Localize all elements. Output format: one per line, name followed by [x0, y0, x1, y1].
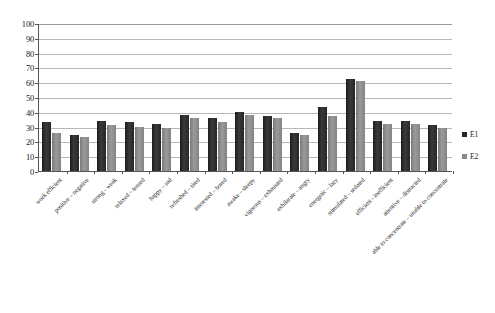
legend-swatch-e2-icon — [462, 154, 467, 159]
y-axis-tick-label: 30 — [0, 124, 34, 133]
bar-e1 — [180, 115, 189, 171]
bar-chart: 0102030405060708090100 work efficientpos… — [0, 0, 495, 313]
y-axis-tick-label: 60 — [0, 79, 34, 88]
bar-group — [149, 24, 177, 171]
legend-item-e1: E1 — [462, 128, 495, 141]
bar-e1 — [42, 122, 51, 171]
x-axis-tick — [122, 171, 123, 174]
x-axis-label: awake – sleepy — [224, 176, 256, 208]
plot-area — [38, 24, 452, 172]
x-axis-tick — [343, 171, 344, 174]
bar-group — [122, 24, 150, 171]
x-axis-label: efficient - inefficient — [353, 176, 394, 217]
x-axis-label: happy – sad — [147, 176, 173, 202]
x-axis-tick — [94, 171, 95, 174]
y-axis-tick — [35, 172, 38, 173]
bar-e2 — [52, 133, 61, 171]
x-axis-tick — [370, 171, 371, 174]
bar-group — [370, 24, 398, 171]
legend-swatch-e1-icon — [462, 132, 467, 137]
bar-e1 — [125, 122, 134, 171]
y-axis-tick-label: 80 — [0, 50, 34, 59]
bar-e1 — [346, 79, 355, 171]
x-axis-tick — [232, 171, 233, 174]
bar-e1 — [428, 125, 437, 171]
bar-e2 — [190, 118, 199, 171]
x-axis-tick — [205, 171, 206, 174]
y-axis-tick-label: 20 — [0, 138, 34, 147]
bar-e2 — [107, 125, 116, 171]
bar-e2 — [411, 124, 420, 171]
x-axis-label: exhilarate – angry — [275, 176, 311, 212]
bar-e2 — [80, 137, 89, 171]
bar-e2 — [383, 124, 392, 171]
x-axis-tick — [315, 171, 316, 174]
y-axis-tick-label: 40 — [0, 109, 34, 118]
x-axis-label: interested – bored — [192, 176, 228, 212]
y-axis-tick-label: 10 — [0, 153, 34, 162]
bar-group — [260, 24, 288, 171]
bar-group — [177, 24, 205, 171]
x-axis-tick — [260, 171, 261, 174]
x-axis-label: attentive – distracted — [381, 176, 422, 217]
bar-group — [39, 24, 67, 171]
bar-e2 — [273, 118, 282, 171]
x-axis-tick — [177, 171, 178, 174]
legend-label-e1: E1 — [470, 131, 478, 139]
x-axis-label: refreshed – tired — [167, 176, 200, 209]
bar-e2 — [328, 116, 337, 171]
y-axis-tick-label: 90 — [0, 35, 34, 44]
bar-e2 — [438, 128, 447, 171]
legend-label-e2: E2 — [470, 153, 478, 161]
bar-group — [287, 24, 315, 171]
bar-e1 — [290, 133, 299, 171]
bar-e1 — [235, 112, 244, 171]
chart-legend: E1 E2 — [462, 128, 495, 172]
legend-item-e2: E2 — [462, 150, 495, 163]
x-axis-tick — [425, 171, 426, 174]
bar-group — [67, 24, 95, 171]
x-axis-tick — [398, 171, 399, 174]
y-axis-tick-label: 50 — [0, 94, 34, 103]
bar-e2 — [245, 115, 254, 171]
bar-e1 — [208, 118, 217, 171]
bar-e2 — [135, 127, 144, 171]
x-axis-label: energetic – lazy — [306, 176, 338, 208]
x-axis-tick — [453, 171, 454, 174]
bar-e1 — [152, 124, 161, 171]
bar-e1 — [401, 121, 410, 171]
x-axis-label: vigorous – exhausted — [242, 176, 284, 218]
x-axis-label: relaxed – tensed — [112, 176, 145, 209]
y-axis-tick-label: 0 — [0, 168, 34, 177]
bar-e1 — [97, 121, 106, 171]
bar-e2 — [356, 81, 365, 171]
x-axis-label: work efficient — [33, 176, 62, 205]
x-axis-label: positive – negative — [53, 176, 91, 214]
bar-e1 — [373, 121, 382, 171]
bar-group — [425, 24, 453, 171]
bar-e1 — [318, 107, 327, 171]
x-axis-tick — [287, 171, 288, 174]
bar-e2 — [218, 122, 227, 171]
bar-group — [232, 24, 260, 171]
y-axis-tick-label: 100 — [0, 20, 34, 29]
x-axis-label: able to concentrate – unable to concentr… — [370, 176, 449, 255]
bar-e1 — [263, 116, 272, 171]
bar-group — [94, 24, 122, 171]
bar-e1 — [70, 135, 79, 171]
x-axis-label: strong - weak — [89, 176, 118, 205]
x-axis-tick — [67, 171, 68, 174]
y-axis-tick-label: 70 — [0, 64, 34, 73]
bar-group — [343, 24, 371, 171]
bar-e2 — [162, 128, 171, 171]
x-axis-label: stimulated – sedated — [326, 176, 366, 216]
bar-group — [398, 24, 426, 171]
bar-e2 — [300, 135, 309, 171]
x-axis-tick — [149, 171, 150, 174]
bar-group — [315, 24, 343, 171]
bar-group — [205, 24, 233, 171]
